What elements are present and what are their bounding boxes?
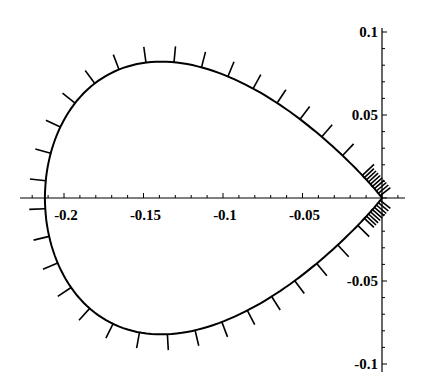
hatch-mark [167,334,168,350]
hatch-mark [174,46,176,62]
x-tick-label: -0.05 [289,207,320,223]
hatch-mark [295,281,305,294]
hatch-mark [85,71,95,84]
hatch-mark [34,236,50,240]
hatch-mark [343,144,354,156]
hatch-mark [79,308,90,320]
plot-area: -0.2-0.15-0.1-0.050.10.05-0.05-0.1 [0,0,425,391]
hatch-mark [29,209,45,210]
x-tick-label: -0.2 [54,207,78,223]
hatch-mark [272,297,281,311]
hatch-mark [222,322,228,337]
hatch-mark [46,120,61,127]
hatch-mark [202,52,206,68]
hatch-mark [144,47,146,63]
hatch-mark [277,90,286,103]
hatch-mark [35,149,50,153]
hatch-mark [300,107,310,120]
hatch-mark [63,93,76,103]
hatch-mark [322,125,332,137]
hatch-mark [113,55,119,70]
hatch-mark [378,203,388,211]
y-tick-label: 0.05 [352,107,378,123]
hatch-mark [137,332,140,348]
y-tick-label: 0.1 [359,24,378,40]
hatch-mark [30,179,46,181]
hatch-mark [43,263,58,269]
chart: -0.2-0.15-0.1-0.050.10.05-0.05-0.1 [0,0,425,391]
hatch-mark [195,330,199,346]
hatch-mark [253,75,261,89]
hatch-mark [106,324,113,338]
hatch-mark [358,225,369,236]
hatch-mark [338,245,349,257]
x-tick-label: -0.15 [130,207,161,223]
hatch-mark [58,288,71,297]
x-tick-label: -0.1 [213,207,237,223]
hatch-mark [247,310,254,324]
y-tick-label: -0.05 [347,273,378,289]
y-tick-label: -0.1 [354,356,378,372]
hatch-mark [317,264,327,276]
axes [20,28,405,372]
hatch-mark [228,62,234,77]
hatch-mark [378,185,388,193]
